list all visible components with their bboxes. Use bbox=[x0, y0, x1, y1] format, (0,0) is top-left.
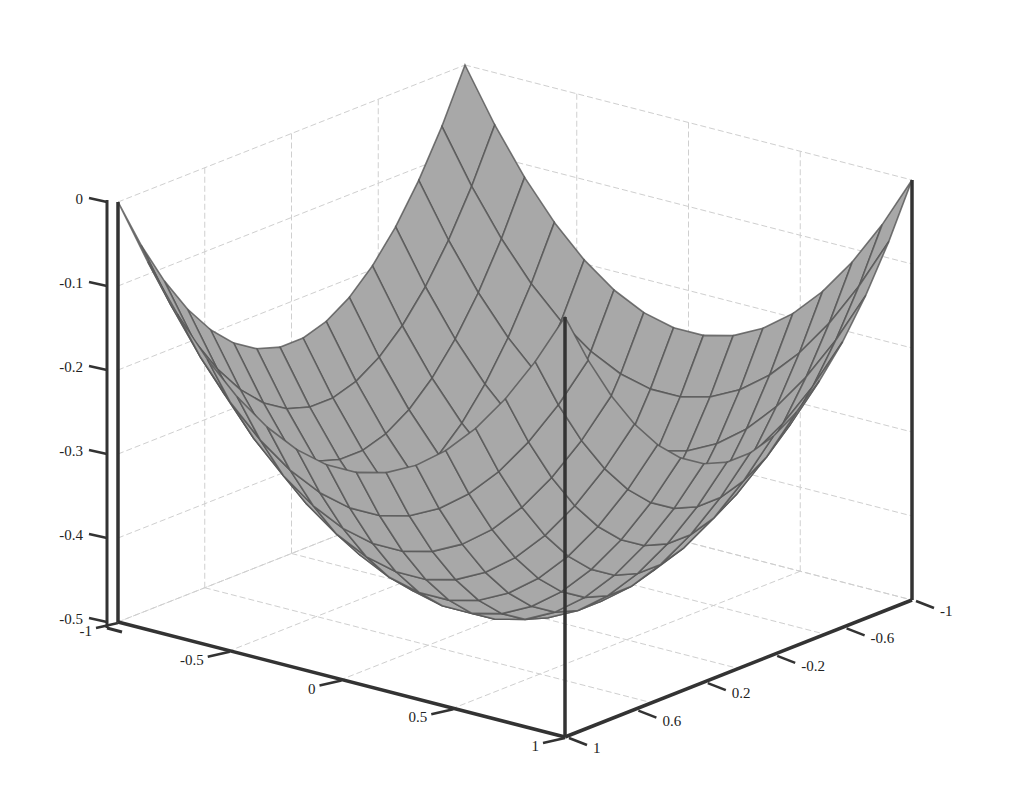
z-tick-label: -0.3 bbox=[59, 443, 83, 459]
x-tick-label: -1 bbox=[80, 623, 93, 639]
x-tick bbox=[208, 652, 230, 657]
y-tick-label: 0.2 bbox=[732, 685, 751, 701]
y-axis-line bbox=[565, 600, 912, 737]
z-tick bbox=[89, 618, 107, 622]
surface-cell bbox=[164, 281, 217, 369]
x-tick-label: -0.5 bbox=[180, 652, 204, 668]
x-tick bbox=[431, 709, 453, 714]
z-tick bbox=[89, 534, 107, 538]
z-tick-label: -0.4 bbox=[59, 527, 83, 543]
y-tick bbox=[777, 656, 795, 663]
surface-cell bbox=[859, 180, 912, 286]
y-tick bbox=[847, 628, 865, 635]
y-tick bbox=[638, 711, 656, 718]
y-tick-label: 1 bbox=[593, 740, 601, 756]
surface-mesh bbox=[118, 65, 912, 619]
z-tick bbox=[89, 450, 107, 454]
x-tick-label: 1 bbox=[532, 738, 540, 754]
x-tick-label: 0 bbox=[308, 681, 316, 697]
surface-plot: 0-0.1-0.2-0.3-0.4-0.5-1-0.500.51-1-0.6-0… bbox=[0, 0, 1017, 794]
y-tick-label: -0.6 bbox=[871, 630, 895, 646]
z-tick-label: 0 bbox=[76, 191, 84, 207]
z-tick bbox=[89, 198, 107, 202]
y-tick-label: 0.6 bbox=[662, 713, 681, 729]
x-tick bbox=[320, 681, 342, 686]
x-tick-label: 0.5 bbox=[409, 709, 428, 725]
z-tick-label: -0.1 bbox=[59, 275, 83, 291]
y-tick-label: -0.2 bbox=[801, 658, 825, 674]
y-tick bbox=[708, 683, 726, 690]
z-tick-label: -0.2 bbox=[59, 359, 83, 375]
z-tick bbox=[89, 282, 107, 286]
z-tick bbox=[89, 366, 107, 370]
y-tick bbox=[569, 738, 587, 745]
z-axis-foot bbox=[107, 628, 122, 632]
y-tick bbox=[916, 601, 934, 608]
y-tick-label: -1 bbox=[940, 603, 953, 619]
x-tick bbox=[543, 738, 565, 743]
x-axis-line bbox=[118, 622, 565, 737]
